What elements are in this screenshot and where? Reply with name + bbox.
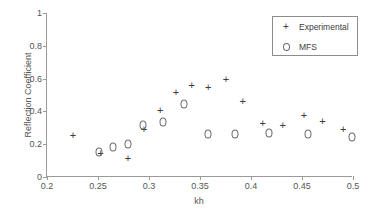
data-point-experimental [258, 119, 267, 128]
x-tick-mark [251, 176, 252, 180]
y-tick-label: 0.8 [29, 41, 42, 50]
circle-marker-icon [273, 43, 299, 51]
x-tick-label: 0.4 [245, 182, 258, 191]
data-point-mfs [159, 118, 166, 127]
x-tick-mark [47, 176, 48, 180]
legend-label-experimental: Experimental [299, 22, 349, 32]
data-point-experimental [300, 111, 309, 120]
data-point-experimental [278, 122, 287, 131]
data-point-experimental [156, 107, 165, 116]
x-axis-title: kh [46, 196, 352, 206]
x-tick-label: 0.2 [41, 182, 54, 191]
data-point-experimental [204, 84, 213, 93]
x-tick-mark [302, 176, 303, 180]
data-point-mfs [266, 128, 273, 137]
scatter-chart: Reflection Coefficient 00.20.40.60.81 0.… [0, 0, 374, 220]
y-tick-label: 0.2 [29, 140, 42, 149]
x-tick-label: 0.5 [347, 182, 360, 191]
data-point-mfs [348, 133, 355, 142]
x-tick-mark [200, 176, 201, 180]
x-tick-label: 0.35 [191, 182, 209, 191]
y-axis-title-container: Reflection Coefficient [14, 13, 26, 177]
x-tick-label: 0.45 [293, 182, 311, 191]
data-point-experimental [222, 75, 231, 84]
y-tick-label: 1 [37, 9, 42, 18]
legend: + Experimental MFS [272, 16, 358, 56]
x-tick-mark [353, 176, 354, 180]
y-tick-mark [43, 13, 47, 14]
data-point-mfs [304, 129, 311, 138]
x-tick-mark [149, 176, 150, 180]
legend-item-mfs: MFS [273, 37, 357, 57]
data-point-experimental [238, 97, 247, 106]
legend-item-experimental: + Experimental [273, 17, 357, 37]
y-tick-label: 0.4 [29, 107, 42, 116]
x-tick-mark [98, 176, 99, 180]
data-point-mfs [232, 129, 239, 138]
y-tick-mark [43, 79, 47, 80]
data-point-mfs [140, 120, 147, 129]
y-tick-mark [43, 46, 47, 47]
data-point-mfs [95, 148, 102, 157]
data-point-experimental [124, 154, 133, 163]
x-tick-label: 0.25 [89, 182, 107, 191]
data-point-experimental [318, 118, 327, 127]
legend-label-mfs: MFS [299, 42, 317, 52]
y-tick-mark [43, 111, 47, 112]
y-tick-mark [43, 144, 47, 145]
data-point-mfs [124, 140, 131, 149]
data-point-mfs [181, 100, 188, 109]
plus-marker-icon: + [273, 23, 299, 31]
data-point-experimental [172, 89, 181, 98]
data-point-mfs [109, 143, 116, 152]
data-point-experimental [339, 126, 348, 135]
y-tick-label: 0.6 [29, 74, 42, 83]
x-tick-label: 0.3 [143, 182, 156, 191]
data-point-mfs [204, 130, 211, 139]
data-point-experimental [187, 81, 196, 90]
data-point-experimental [69, 132, 78, 141]
